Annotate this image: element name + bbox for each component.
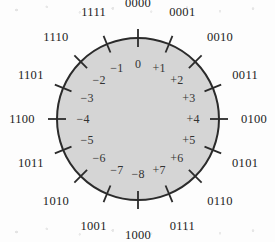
number-circle-svg bbox=[0, 0, 275, 242]
number-circle-figure: 000000001+10010+20011+30100+40101+50110+… bbox=[0, 0, 275, 242]
